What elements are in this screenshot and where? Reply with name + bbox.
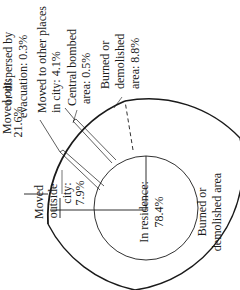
moved-city-label-1: Moved to other places	[35, 6, 49, 113]
moved-city-label-2: in city: 4.1%	[49, 51, 63, 113]
moved-outside-label-1: Moved	[32, 185, 46, 219]
moved-outside-label-3: city:	[60, 182, 74, 203]
burned-area-label-2: demolished area	[210, 172, 224, 251]
burned-small-label-1: Burned or	[98, 41, 112, 89]
burned-area-label-1: Burned or	[195, 188, 209, 236]
in-residence-label: In residence:	[137, 181, 151, 243]
in-residence-value: 78.4%	[152, 197, 166, 228]
labels: Moved out: 21.6% or dispersed by evacuat…	[0, 6, 224, 251]
dispersed-label-1: or dispersed by	[1, 32, 15, 105]
nested-pie-chart: Moved out: 21.6% or dispersed by evacuat…	[0, 0, 240, 290]
burned-small-label-3: area: 8.8%	[128, 38, 142, 89]
dispersed-label-2: evacuation: 0.3%	[16, 35, 30, 118]
moved-outside-label-2: outside	[46, 184, 60, 219]
moved-outside-label-4: 7.9%	[73, 181, 87, 206]
central-bombed-label-2: area: 0.5%	[79, 53, 93, 104]
central-bombed-label-1: Central bombed	[65, 29, 79, 106]
burned-small-label-2: demolished	[113, 34, 127, 89]
